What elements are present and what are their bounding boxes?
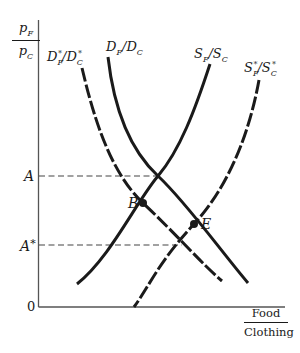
hs-sub1: F xyxy=(203,55,209,64)
x-axis-label: Food Clothing xyxy=(244,306,288,339)
fd-sub2: C xyxy=(77,58,83,67)
fs-sub2: C xyxy=(271,69,277,78)
fd-sup2: * xyxy=(78,49,82,58)
point-E-marker xyxy=(190,220,198,228)
foreign-demand-curve xyxy=(82,68,222,281)
hd-base2: D xyxy=(126,39,136,54)
foreign-demand-label: DF*/DC* xyxy=(47,50,82,67)
home-demand-label: DF/DC xyxy=(106,40,143,57)
diagram-canvas xyxy=(0,0,300,353)
point-B-label: B xyxy=(128,196,138,210)
hs-base2: S xyxy=(213,46,222,61)
hs-base1: S xyxy=(194,46,203,61)
y-axis-label: pF pC xyxy=(12,20,40,60)
fs-sup1: * xyxy=(253,60,257,69)
fd-base2: D xyxy=(66,49,76,64)
hd-base1: D xyxy=(106,39,116,54)
fd-sup1: * xyxy=(58,49,62,58)
price-level-A-star-sup: * xyxy=(30,237,36,250)
price-level-A-label: A xyxy=(24,169,34,183)
hd-sub1: F xyxy=(116,48,122,57)
fs-sub1: F xyxy=(253,69,259,78)
fs-base1: S xyxy=(244,60,253,75)
point-E-label: E xyxy=(201,217,211,231)
home-demand-curve xyxy=(108,57,248,283)
y-label-numerator-sub: F xyxy=(27,29,33,38)
y-label-denominator-sub: C xyxy=(27,51,33,60)
x-label-numerator: Food xyxy=(244,306,288,323)
foreign-supply-label: SF*/SC* xyxy=(244,61,276,78)
fs-sup2: * xyxy=(272,60,276,69)
hs-sub2: C xyxy=(222,55,228,64)
point-B-marker xyxy=(139,199,147,207)
y-label-denominator: p xyxy=(19,43,27,58)
fd-base1: D xyxy=(47,49,57,64)
fd-sub1: F xyxy=(57,58,63,67)
home-supply-label: SF/SC xyxy=(194,47,228,64)
x-label-denominator: Clothing xyxy=(244,323,288,339)
fs-base2: S xyxy=(262,60,271,75)
price-level-A-star-label: A* xyxy=(20,238,36,253)
hd-sub2: C xyxy=(137,48,143,57)
price-level-A-text: A xyxy=(24,168,34,184)
price-level-A-star-text: A xyxy=(20,238,30,254)
origin-label: 0 xyxy=(27,300,35,313)
